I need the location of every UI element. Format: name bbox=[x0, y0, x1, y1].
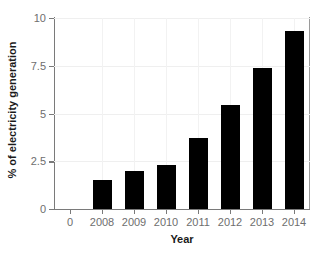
x-tick-label: 2010 bbox=[154, 216, 178, 228]
bar bbox=[253, 68, 272, 209]
bar-chart: % of electricity generation 02.557.510 0… bbox=[0, 0, 323, 259]
x-tick-label: 2008 bbox=[90, 216, 114, 228]
x-tick-mark bbox=[134, 209, 135, 214]
x-tick-mark bbox=[198, 209, 199, 214]
y-tick-mark bbox=[49, 66, 54, 67]
x-tick-mark bbox=[166, 209, 167, 214]
x-tick-mark bbox=[70, 209, 71, 214]
bar bbox=[189, 138, 208, 209]
bar bbox=[93, 180, 112, 209]
x-tick-label: 2014 bbox=[282, 216, 306, 228]
bar bbox=[157, 165, 176, 209]
gridline-horizontal bbox=[54, 161, 310, 162]
x-tick-mark bbox=[230, 209, 231, 214]
bar bbox=[125, 171, 144, 209]
y-tick-mark bbox=[49, 209, 54, 210]
x-tick-label: 2013 bbox=[250, 216, 274, 228]
x-tick-mark bbox=[102, 209, 103, 214]
y-tick-label: 0 bbox=[40, 203, 46, 215]
bar bbox=[285, 31, 304, 209]
y-axis-title: % of electricity generation bbox=[6, 10, 18, 210]
x-tick-label: 2012 bbox=[218, 216, 242, 228]
x-tick-label: 2011 bbox=[186, 216, 210, 228]
y-tick-mark bbox=[49, 161, 54, 162]
bar bbox=[221, 105, 240, 209]
gridline-horizontal bbox=[54, 18, 310, 19]
y-tick-label: 2.5 bbox=[31, 155, 46, 167]
gridline-horizontal bbox=[54, 66, 310, 67]
x-tick-mark bbox=[294, 209, 295, 214]
gridline-horizontal bbox=[54, 114, 310, 115]
y-tick-label: 10 bbox=[34, 12, 46, 24]
y-tick-mark bbox=[49, 114, 54, 115]
x-tick-mark bbox=[262, 209, 263, 214]
x-tick-label: 0 bbox=[67, 216, 73, 228]
plot-area bbox=[54, 18, 310, 209]
x-tick-label: 2009 bbox=[122, 216, 146, 228]
y-tick-mark bbox=[49, 18, 54, 19]
y-tick-label: 5 bbox=[40, 108, 46, 120]
x-axis-title: Year bbox=[54, 233, 310, 245]
y-tick-label: 7.5 bbox=[31, 60, 46, 72]
